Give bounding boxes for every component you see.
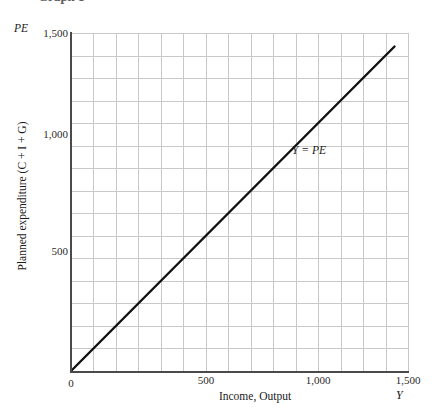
y-axis-title: Planned expenditure (C + I + G) [16,86,28,306]
y-axis-title-text: Planned expenditure (C + I + G) [16,121,28,270]
x-tick-label-0: 0 [41,377,101,389]
x-tick-label-500: 500 [176,374,236,386]
x-tick-label-1500: 1,500 [378,374,434,386]
line-y-equals-pe [71,47,395,371]
x-axis-symbol: Y [396,388,403,403]
y-axis-line [70,32,72,372]
x-axis-title: Income, Output [155,390,355,402]
series-identity-line [71,33,408,371]
figure-title: Graph 1 [38,0,85,5]
x-axis-line [70,371,409,373]
x-tick-label-1000: 1,000 [288,374,348,386]
y-tick-label-1500: 1,500 [24,27,68,39]
y-tick-label-500: 500 [24,245,68,257]
figure-title-strip: Graph 1 [0,0,434,9]
gridline-vertical-1500 [408,33,409,371]
y-tick-label-1000: 1,000 [24,128,68,140]
plot-area [71,33,408,371]
identity-line-label: Y = PE [292,144,326,156]
